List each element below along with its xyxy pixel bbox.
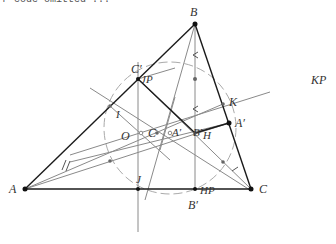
label-c: C <box>259 182 268 196</box>
label-b: B <box>190 5 198 19</box>
label-a: A <box>8 182 17 196</box>
point-j <box>136 187 140 191</box>
point-a <box>23 187 28 192</box>
label-h: H <box>202 129 212 141</box>
label-c-center: C <box>148 126 157 140</box>
label-hp: HP <box>199 184 215 196</box>
label-b-prime: B′ <box>188 198 198 212</box>
label-o: O <box>121 129 130 143</box>
point-b <box>193 22 198 27</box>
label-a-center: A′ <box>171 126 182 138</box>
tick-marks <box>62 52 238 171</box>
geometry-diagram: B A C C′ JP A′ K KP I O C A′ B′ H J HP B… <box>0 0 336 244</box>
point-c-prime <box>136 77 140 81</box>
label-a-prime: A′ <box>234 116 245 130</box>
label-j: J <box>136 173 142 185</box>
label-kp: KP <box>310 73 327 87</box>
label-jp: JP <box>141 73 153 85</box>
label-i: I <box>115 108 121 120</box>
point-b-prime <box>193 187 197 191</box>
label-b-center: B′ <box>193 126 203 138</box>
dashed-circle <box>104 62 236 194</box>
label-k: K <box>228 95 238 109</box>
point-a-prime <box>227 121 232 126</box>
point-c <box>249 187 254 192</box>
